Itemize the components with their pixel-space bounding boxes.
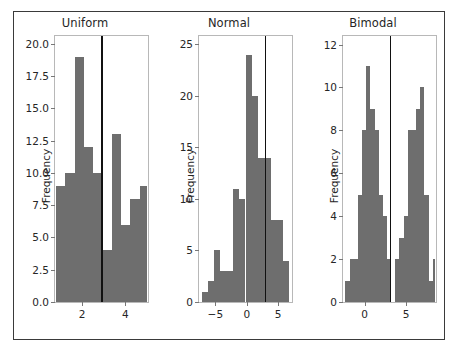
y-tick-label: 20.0 bbox=[26, 38, 49, 50]
y-tick-mark bbox=[51, 76, 55, 77]
x-tick-mark bbox=[278, 302, 279, 306]
x-tick-mark bbox=[125, 302, 126, 306]
y-tick-mark bbox=[195, 250, 199, 251]
y-tick-label: 15.0 bbox=[26, 102, 49, 114]
figure-canvas: Uniform Frequency 0.02.55.07.510.012.515… bbox=[0, 0, 458, 351]
panel-title-uniform: Uniform bbox=[13, 16, 157, 30]
x-tick-mark bbox=[247, 302, 248, 306]
y-tick-label: 2 bbox=[330, 253, 337, 265]
y-tick-label: 10.0 bbox=[26, 167, 49, 179]
panel-title-normal: Normal bbox=[157, 16, 301, 30]
y-tick-label: 12.5 bbox=[26, 135, 49, 147]
y-tick-mark bbox=[51, 302, 55, 303]
panel-row: Uniform Frequency 0.02.55.07.510.012.515… bbox=[13, 11, 445, 340]
histogram-bar bbox=[56, 186, 65, 302]
x-tick-mark bbox=[406, 302, 407, 306]
histogram-bars-normal bbox=[199, 36, 292, 302]
x-tick-mark bbox=[365, 302, 366, 306]
x-tick-label: 4 bbox=[122, 308, 129, 320]
y-tick-label: 6 bbox=[330, 167, 337, 179]
y-tick-mark bbox=[339, 302, 343, 303]
y-tick-label: 12 bbox=[324, 39, 337, 51]
y-tick-mark bbox=[339, 173, 343, 174]
y-tick-mark bbox=[51, 44, 55, 45]
x-tick-label: 0 bbox=[361, 308, 368, 320]
y-tick-label: 8 bbox=[330, 124, 337, 136]
y-tick-label: 25 bbox=[180, 38, 193, 50]
panel-bimodal: Bimodal Frequency 024681012 05 bbox=[301, 11, 445, 340]
histogram-bar bbox=[65, 173, 74, 302]
y-tick-mark bbox=[195, 44, 199, 45]
y-tick-label: 15 bbox=[180, 141, 193, 153]
y-tick-mark bbox=[339, 259, 343, 260]
y-tick-mark bbox=[51, 108, 55, 109]
histogram-bar bbox=[84, 147, 93, 302]
axes-normal: 0510152025 −505 bbox=[198, 35, 293, 303]
y-tick-mark bbox=[339, 87, 343, 88]
y-tick-mark bbox=[51, 173, 55, 174]
x-tick-label: 5 bbox=[275, 308, 282, 320]
x-tick-label: 5 bbox=[403, 308, 410, 320]
axes-uniform: 0.02.55.07.510.012.515.017.520.0 24 bbox=[54, 35, 149, 303]
plot-area-uniform bbox=[55, 36, 148, 302]
x-tick-mark bbox=[215, 302, 216, 306]
histogram-bar bbox=[75, 57, 84, 302]
axes-bimodal: 024681012 05 bbox=[342, 35, 437, 303]
y-tick-mark bbox=[51, 205, 55, 206]
y-tick-label: 7.5 bbox=[32, 199, 49, 211]
y-tick-label: 17.5 bbox=[26, 70, 49, 82]
x-tick-label: 0 bbox=[243, 308, 250, 320]
x-tick-label: −5 bbox=[208, 308, 223, 320]
y-tick-mark bbox=[51, 237, 55, 238]
reference-vline bbox=[101, 36, 103, 302]
y-tick-mark bbox=[339, 130, 343, 131]
panel-uniform: Uniform Frequency 0.02.55.07.510.012.515… bbox=[13, 11, 157, 340]
histogram-bar bbox=[130, 199, 139, 302]
histogram-bar bbox=[140, 186, 147, 302]
y-tick-label: 10 bbox=[324, 81, 337, 93]
y-tick-mark bbox=[339, 45, 343, 46]
x-tick-label: 2 bbox=[79, 308, 86, 320]
y-tick-label: 0.0 bbox=[32, 296, 49, 308]
reference-vline bbox=[265, 36, 267, 302]
y-tick-mark bbox=[195, 147, 199, 148]
y-tick-mark bbox=[195, 199, 199, 200]
y-tick-label: 20 bbox=[180, 90, 193, 102]
x-tick-mark bbox=[82, 302, 83, 306]
y-tick-label: 0 bbox=[186, 296, 193, 308]
histogram-bar bbox=[433, 259, 435, 302]
histogram-bar bbox=[103, 250, 112, 302]
panel-title-bimodal: Bimodal bbox=[301, 16, 445, 30]
histogram-bar bbox=[112, 134, 121, 302]
plot-area-bimodal bbox=[343, 36, 436, 302]
y-tick-label: 4 bbox=[330, 210, 337, 222]
y-tick-label: 0 bbox=[330, 296, 337, 308]
y-tick-mark bbox=[195, 302, 199, 303]
histogram-bar bbox=[121, 225, 130, 302]
y-tick-label: 5.0 bbox=[32, 231, 49, 243]
y-tick-mark bbox=[51, 141, 55, 142]
reference-vline bbox=[390, 36, 392, 302]
y-tick-mark bbox=[195, 96, 199, 97]
histogram-bar bbox=[283, 261, 289, 302]
y-tick-label: 2.5 bbox=[32, 264, 49, 276]
y-tick-mark bbox=[51, 270, 55, 271]
y-tick-label: 10 bbox=[180, 193, 193, 205]
y-tick-label: 5 bbox=[186, 244, 193, 256]
y-tick-mark bbox=[339, 216, 343, 217]
plot-area-normal bbox=[199, 36, 292, 302]
panel-normal: Normal Frequency 0510152025 −505 bbox=[157, 11, 301, 340]
